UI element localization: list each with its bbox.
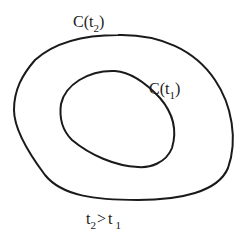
inner-curve-label: C(t1) [149,80,180,101]
evolving-curves-diagram: C(t2) C(t1) t2>t1 [0,0,244,242]
time-condition-label: t2>t1 [86,210,121,231]
outer-curve-c-t2 [14,35,233,200]
outer-curve-label: C(t2) [73,13,104,34]
